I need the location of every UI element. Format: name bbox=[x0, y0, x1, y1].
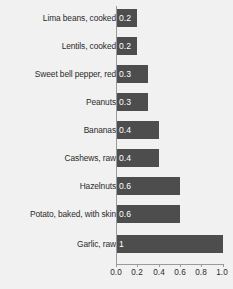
category-label: Cashews, raw bbox=[65, 153, 116, 163]
category-label: Hazelnuts bbox=[80, 181, 116, 191]
bar-value-label: 0.2 bbox=[119, 13, 131, 23]
x-axis-line bbox=[116, 264, 223, 265]
x-axis-tick-label: 0.0 bbox=[110, 268, 121, 278]
bar[interactable]: 1 bbox=[116, 235, 223, 253]
bar-value-label: 0.6 bbox=[119, 181, 131, 191]
bar[interactable]: 0.4 bbox=[116, 121, 159, 139]
x-axis-tick bbox=[116, 264, 117, 267]
bar-value-label: 0.3 bbox=[119, 69, 131, 79]
bar-value-label: 0.3 bbox=[119, 97, 131, 107]
bar[interactable]: 0.2 bbox=[116, 9, 137, 27]
x-axis-tick-label: 0.4 bbox=[153, 268, 164, 278]
x-axis-tick bbox=[159, 264, 160, 267]
bar[interactable]: 0.6 bbox=[116, 177, 180, 195]
bar[interactable]: 0.3 bbox=[116, 93, 148, 111]
category-label: Bananas bbox=[84, 125, 116, 135]
category-label: Peanuts bbox=[86, 97, 116, 107]
bar[interactable]: 0.6 bbox=[116, 205, 180, 223]
category-label: Sweet bell pepper, red bbox=[35, 69, 116, 79]
x-axis-tick-label: 0.6 bbox=[174, 268, 185, 278]
bar[interactable]: 0.2 bbox=[116, 37, 137, 55]
plot-area: Lima beans, cooked 0.2 Lentils, cooked 0… bbox=[0, 0, 233, 289]
x-axis-tick bbox=[137, 264, 138, 267]
category-label: Lima beans, cooked bbox=[43, 13, 116, 23]
bar-value-label: 0.6 bbox=[119, 209, 131, 219]
category-label: Garlic, raw bbox=[77, 239, 116, 249]
y-axis-line bbox=[116, 6, 117, 264]
bar-chart: Lima beans, cooked 0.2 Lentils, cooked 0… bbox=[0, 0, 233, 289]
category-label: Lentils, cooked bbox=[62, 41, 116, 51]
x-axis-tick-label: 1.0 bbox=[216, 268, 227, 278]
x-axis-tick-label: 0.2 bbox=[131, 268, 142, 278]
x-axis-tick bbox=[223, 264, 224, 267]
category-label: Potato, baked, with skin bbox=[30, 209, 116, 219]
bar[interactable]: 0.4 bbox=[116, 149, 159, 167]
bar-value-label: 0.4 bbox=[119, 125, 131, 135]
bar-value-label: 0.2 bbox=[119, 41, 131, 51]
bar-value-label: 0.4 bbox=[119, 153, 131, 163]
x-axis-tick-label: 0.8 bbox=[195, 268, 206, 278]
bar[interactable]: 0.3 bbox=[116, 65, 148, 83]
bar-value-label: 1 bbox=[119, 239, 124, 249]
x-axis-tick bbox=[180, 264, 181, 267]
x-axis-tick bbox=[201, 264, 202, 267]
